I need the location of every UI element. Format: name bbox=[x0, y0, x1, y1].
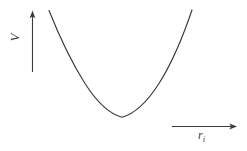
canvas-background bbox=[0, 0, 247, 151]
potential-energy-diagram: V ri bbox=[0, 0, 247, 151]
y-axis-label: V bbox=[8, 34, 21, 42]
x-axis-label: ri bbox=[198, 129, 205, 144]
diagram-canvas bbox=[0, 0, 247, 151]
x-axis-label-subscript: i bbox=[203, 134, 205, 144]
